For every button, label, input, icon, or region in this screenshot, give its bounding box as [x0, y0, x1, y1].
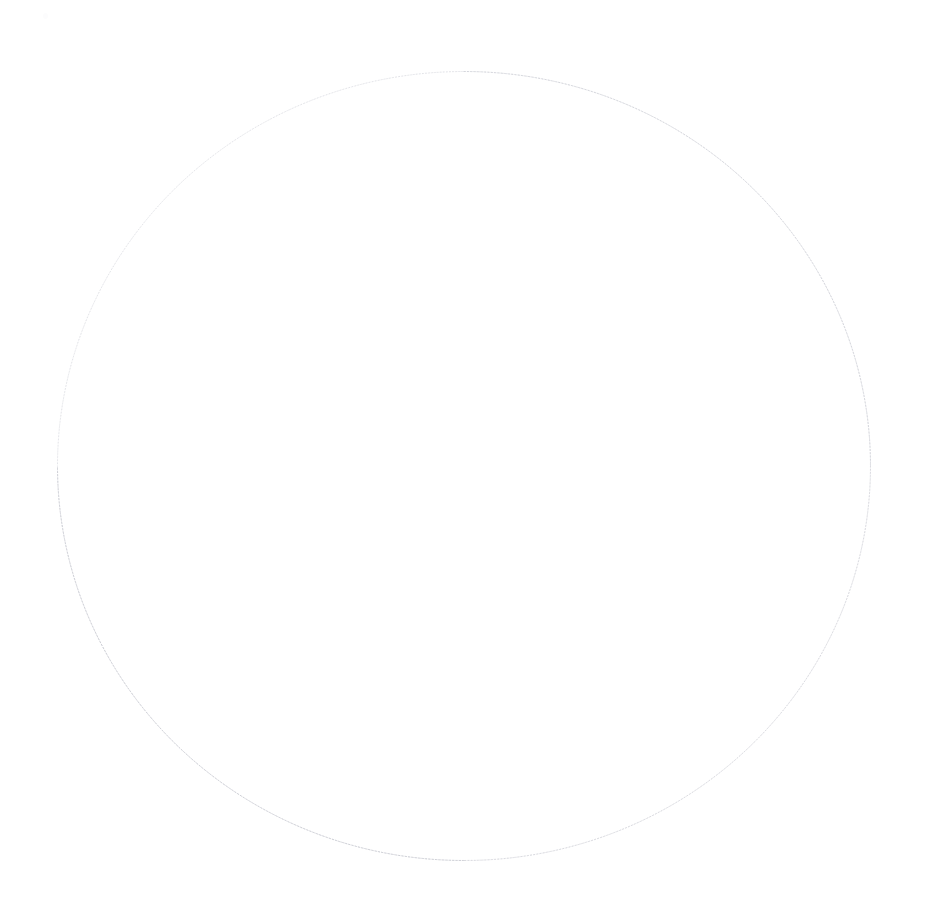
blank-canvas — [0, 0, 927, 912]
figure-interior-empty-area — [160, 170, 768, 762]
